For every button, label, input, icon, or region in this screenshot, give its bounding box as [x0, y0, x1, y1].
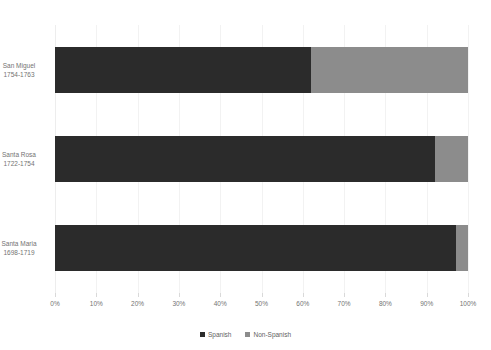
x-tick-mark [427, 293, 428, 297]
bar-segment-spanish[interactable] [55, 225, 456, 271]
x-tick-label: 60% [296, 299, 309, 308]
x-tick-mark [385, 293, 386, 297]
legend-item-non-spanish[interactable]: Non-Spanish [245, 330, 291, 339]
x-tick-label: 80% [379, 299, 392, 308]
x-tick-label: 10% [90, 299, 103, 308]
x-tick-mark [303, 293, 304, 297]
category-label-line-0: Santa Rosa [0, 150, 54, 159]
category-label-line-0: Santa Maria [0, 239, 54, 248]
category-label: Santa Maria1698-1719 [0, 239, 54, 257]
legend-item-spanish[interactable]: Spanish [200, 330, 232, 339]
x-tick-label: 40% [214, 299, 227, 308]
bar-segment-spanish[interactable] [55, 47, 311, 93]
x-tick-mark [468, 293, 469, 297]
x-tick-mark [344, 293, 345, 297]
category-label: Santa Rosa1722-1754 [0, 150, 54, 168]
category-label-line-1: 1722-1754 [0, 159, 54, 168]
chart-legend: SpanishNon-Spanish [0, 330, 491, 339]
x-tick-mark [179, 293, 180, 297]
x-tick-label: 30% [172, 299, 185, 308]
category-label-line-0: San Miguel [0, 61, 54, 70]
legend-label: Non-Spanish [253, 330, 291, 339]
bars-layer [55, 25, 468, 293]
x-tick-label: 50% [255, 299, 268, 308]
bar-segment-non-spanish[interactable] [456, 225, 468, 271]
bar-segment-spanish[interactable] [55, 136, 435, 182]
bar-row[interactable] [55, 47, 468, 93]
x-tick-mark [96, 293, 97, 297]
category-label-line-1: 1754-1763 [0, 70, 54, 79]
x-tick-label: 100% [460, 299, 477, 308]
category-label-line-1: 1698-1719 [0, 248, 54, 257]
gridline [468, 25, 469, 293]
square-marker-icon [200, 332, 205, 337]
x-tick-label: 90% [420, 299, 433, 308]
category-label: San Miguel1754-1763 [0, 61, 54, 79]
x-tick-mark [138, 293, 139, 297]
x-tick-mark [55, 293, 56, 297]
x-tick-label: 20% [131, 299, 144, 308]
x-tick-label: 70% [338, 299, 351, 308]
bar-row[interactable] [55, 225, 468, 271]
bar-segment-non-spanish[interactable] [311, 47, 468, 93]
legend-label: Spanish [208, 330, 232, 339]
x-tick-mark [262, 293, 263, 297]
x-tick-mark [220, 293, 221, 297]
square-marker-icon [245, 332, 250, 337]
x-tick-label: 0% [50, 299, 59, 308]
bar-segment-non-spanish[interactable] [435, 136, 468, 182]
x-axis: 0%10%20%30%40%50%60%70%80%90%100% [55, 293, 468, 315]
bar-row[interactable] [55, 136, 468, 182]
stacked-bar-chart: San Miguel1754-1763Santa Rosa1722-1754Sa… [0, 0, 491, 350]
